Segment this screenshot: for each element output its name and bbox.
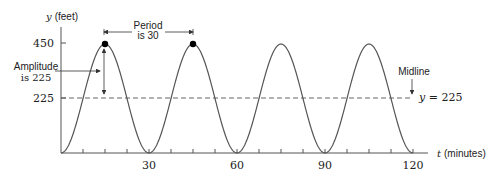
sinusoid-chart: Period is 30 Amplitude is 225 Midline y … — [0, 0, 491, 177]
x-ticks — [83, 149, 413, 153]
x-axis-unit: (minutes) — [444, 148, 486, 159]
period-label-line2: is 30 — [137, 30, 159, 41]
amplitude-label-line2: is 225 — [21, 72, 52, 83]
x-tick-label-60: 60 — [230, 159, 244, 172]
peak-dot-1 — [102, 41, 108, 47]
peak-dot-2 — [190, 41, 196, 47]
y-axis-var: y — [45, 11, 52, 22]
x-tick-label-90: 90 — [318, 159, 332, 172]
midline-equation: y = 225 — [418, 91, 462, 104]
x-tick-label-30: 30 — [142, 159, 156, 172]
midline-eq-rest: = 225 — [425, 91, 462, 104]
y-tick-label-450: 450 — [33, 37, 54, 50]
x-axis-var: t — [437, 148, 442, 159]
midline-label: Midline — [398, 66, 430, 77]
amplitude-label-line1: Amplitude — [14, 61, 59, 72]
sinusoid-curve — [61, 44, 413, 153]
y-axis-unit: (feet) — [55, 11, 78, 22]
y-tick-label-225: 225 — [33, 92, 54, 105]
y-axis-label: y(feet) — [45, 11, 78, 22]
x-axis-label: t(minutes) — [437, 148, 486, 159]
x-tick-label-120: 120 — [403, 159, 424, 172]
